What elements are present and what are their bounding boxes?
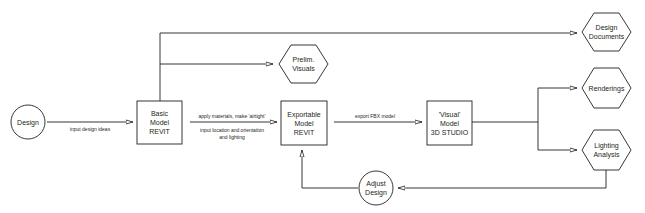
node-prelim-visuals-label: Prelim. Visuals (279, 45, 328, 83)
edge-basic-to-prelim (160, 33, 273, 101)
edge-adjust-to-exportable (302, 150, 358, 188)
edge-label-export-fbx: export FBX model (340, 113, 410, 120)
node-renderings-label: Renderings (582, 68, 631, 108)
edge-label-and-lighting: and lighting (188, 134, 276, 141)
edge-label-apply-materials: apply materials, make 'airtight' (188, 113, 276, 120)
node-exportable-model-label: Exportable Model REVIT (281, 101, 327, 145)
node-visual-model-label: 'Visual' Model 3D STUDIO (427, 101, 472, 145)
edge-lighting-to-adjust (398, 170, 606, 188)
node-design-label: Design (11, 113, 45, 131)
edge-label-input-location: input location and orientation (188, 127, 276, 134)
workflow-diagram: Design Basic Model REVIT Prelim. Visuals… (0, 0, 645, 213)
node-design-documents-label: Design Documents (582, 13, 631, 51)
node-adjust-design-label: Adjust Design (359, 174, 393, 202)
edge-visual-to-outputs (472, 88, 577, 150)
node-basic-model-label: Basic Model REVIT (137, 101, 182, 144)
node-lighting-analysis-label: Lighting Analysis (582, 130, 631, 170)
edge-label-input-design-ideas: input design ideas (62, 126, 118, 133)
